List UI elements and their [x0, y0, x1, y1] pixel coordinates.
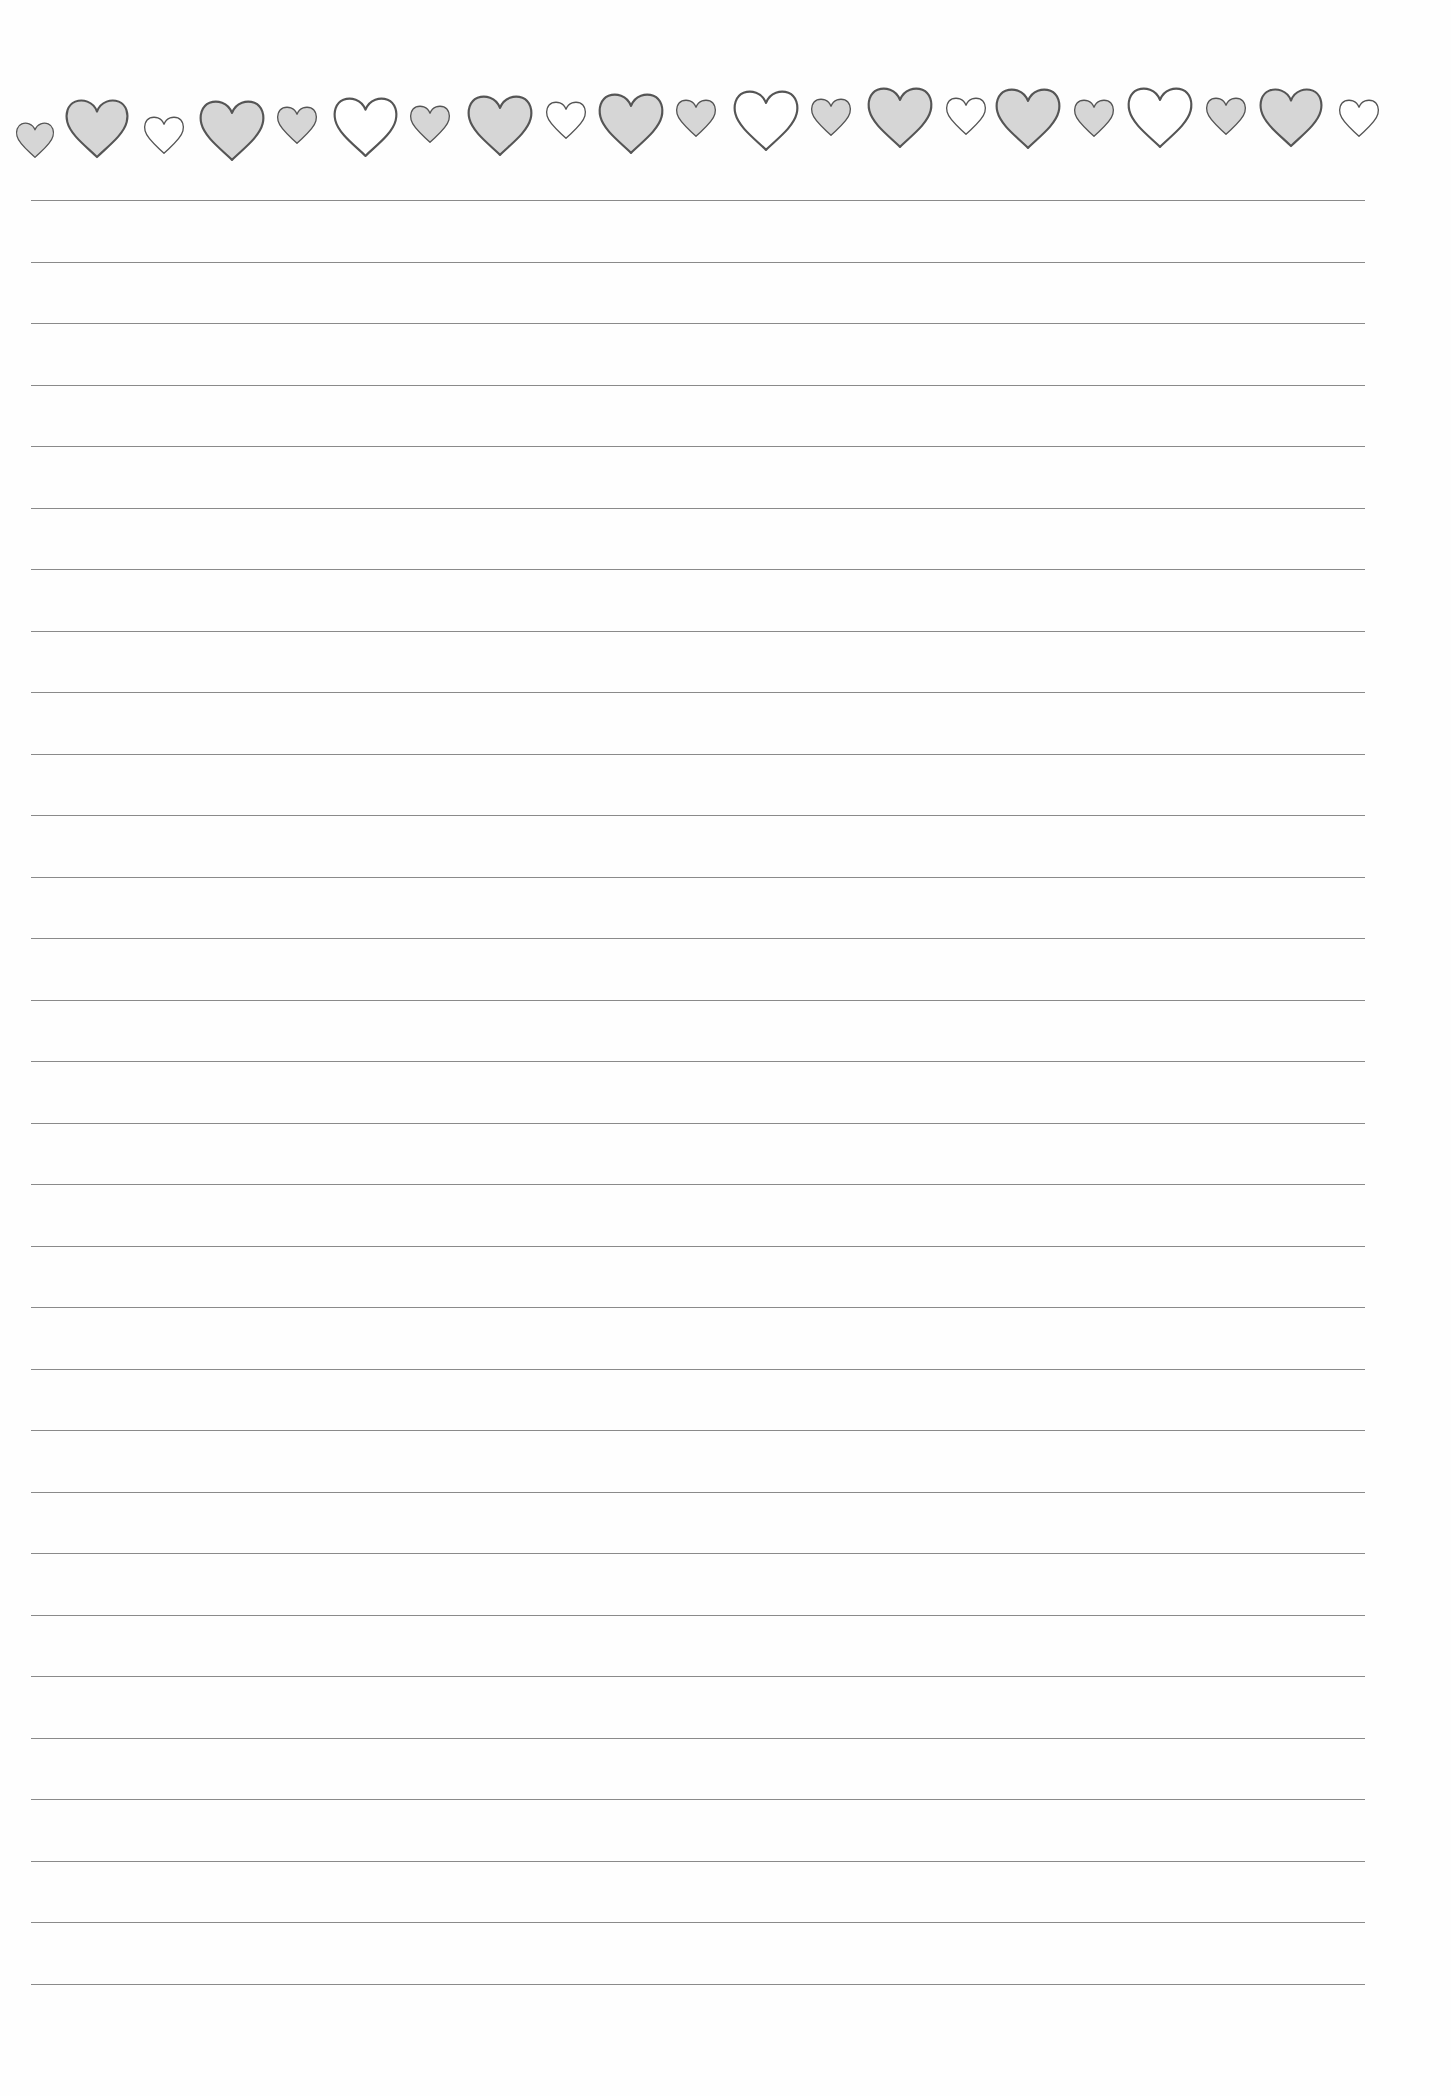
ruled-line: [31, 323, 1365, 324]
ruled-line: [31, 815, 1365, 816]
ruled-line: [31, 446, 1365, 447]
ruled-line: [31, 1553, 1365, 1554]
ruled-line: [31, 1492, 1365, 1493]
ruled-line: [31, 1307, 1365, 1308]
ruled-line: [31, 385, 1365, 386]
heart-icon: [675, 98, 717, 138]
heart-icon: [810, 97, 852, 137]
heart-icon: [994, 86, 1062, 151]
heart-icon: [945, 96, 987, 136]
heart-icon: [64, 97, 130, 160]
ruled-line: [31, 1430, 1365, 1431]
heart-icon: [1126, 85, 1194, 150]
ruled-line: [31, 569, 1365, 570]
heart-icon: [332, 95, 399, 159]
heart-icon: [732, 88, 800, 153]
ruled-line: [31, 200, 1365, 201]
ruled-line: [31, 1246, 1365, 1247]
ruled-line: [31, 692, 1365, 693]
ruled-line: [31, 1922, 1365, 1923]
heart-icon: [198, 98, 266, 163]
heart-icon: [143, 115, 185, 155]
heart-icon: [1258, 86, 1324, 149]
heart-icon: [545, 100, 587, 140]
ruled-line: [31, 631, 1365, 632]
ruled-line: [31, 1123, 1365, 1124]
heart-icon: [1205, 96, 1247, 136]
ruled-line: [31, 1184, 1365, 1185]
heart-icon: [409, 104, 451, 144]
ruled-line: [31, 1984, 1365, 1985]
ruled-line: [31, 754, 1365, 755]
ruled-line: [31, 1799, 1365, 1800]
ruled-line: [31, 938, 1365, 939]
ruled-line: [31, 1369, 1365, 1370]
heart-icon: [15, 121, 55, 159]
ruled-line: [31, 508, 1365, 509]
heart-icon: [1073, 98, 1115, 138]
heart-icon: [276, 105, 318, 145]
ruled-line: [31, 1861, 1365, 1862]
ruled-line: [31, 877, 1365, 878]
lined-paper-page: [0, 0, 1451, 2096]
ruled-line: [31, 262, 1365, 263]
heart-icon: [1338, 98, 1380, 138]
heart-icon: [597, 91, 665, 156]
heart-border: [0, 85, 1451, 175]
heart-icon: [866, 85, 934, 150]
ruled-line: [31, 1615, 1365, 1616]
ruled-line: [31, 1061, 1365, 1062]
ruled-line: [31, 1738, 1365, 1739]
ruled-line: [31, 1000, 1365, 1001]
heart-icon: [466, 93, 534, 158]
ruled-line: [31, 1676, 1365, 1677]
